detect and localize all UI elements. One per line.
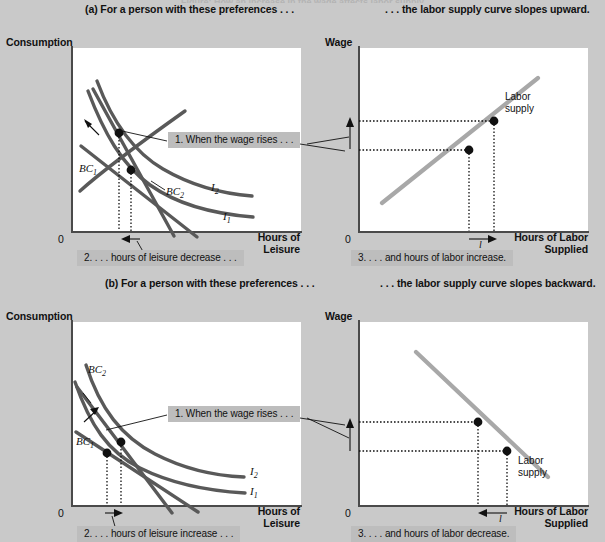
panel-a-callout-3: 3. . . . and hours of labor increase. xyxy=(351,250,513,266)
panel-b-right-hours-gap-arrowhead xyxy=(478,509,487,517)
panel-a-right-labor-supply-label-line2: supply xyxy=(505,103,534,114)
panel-b-right-point-low-wage xyxy=(503,447,512,456)
panel-b-right-labor-supply-label: Labor supply xyxy=(518,455,547,478)
panel-a-right-curves xyxy=(0,3,605,271)
panel-a-right-hours-gap-arrowhead xyxy=(488,235,497,243)
panel-a-right-callout1-leader xyxy=(307,137,349,144)
panel-a-right-labor-supply-label-line1: Labor xyxy=(505,91,531,102)
panel-a-right-wage-gap-arrowhead xyxy=(346,117,354,127)
panel-b-right-labor-supply-label-line2: supply xyxy=(518,467,547,478)
panel-b: (b) For a person with these preferences … xyxy=(0,277,605,542)
panel-b-right-callout1-leader xyxy=(307,418,349,438)
panel-b-right-gap-label: l xyxy=(499,513,502,524)
panel-a-right-gap-label: l xyxy=(479,239,482,250)
panel-a-right-point-low-wage xyxy=(465,146,474,155)
panel-a: (a) For a person with these preferences … xyxy=(0,3,605,271)
panel-a-right-labor-supply-label: Labor supply xyxy=(505,91,534,114)
panel-b-right-wage-gap-arrowhead xyxy=(346,418,354,428)
panel-b-right-point-high-wage xyxy=(474,418,483,427)
panel-a-right-point-high-wage xyxy=(490,117,499,126)
panel-b-callout-3: 3. . . . and hours of labor decrease. xyxy=(351,526,516,542)
panel-b-right-labor-supply-label-line1: Labor xyxy=(518,455,544,466)
panel-b-right-curves xyxy=(0,277,605,542)
